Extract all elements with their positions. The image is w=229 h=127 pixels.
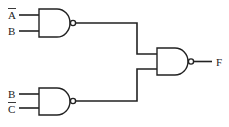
inversion-bubble-1 [70, 20, 75, 25]
output-label-f: F [216, 56, 222, 68]
input-label-b-bottom: B [8, 88, 15, 100]
nand-body-3 [157, 48, 188, 75]
nand-gate-2: B C [8, 69, 157, 115]
nand-gate-1: A B [8, 9, 157, 55]
input-label-a-bar: A [8, 9, 16, 21]
input-label-c-bar: C [8, 103, 15, 115]
input-label-b-top: B [8, 25, 15, 37]
nand-body-1 [39, 9, 70, 37]
nand-gate-3: F [157, 48, 222, 75]
logic-circuit-diagram: A B B C F [0, 0, 229, 127]
wire-nand1-to-nand3 [76, 23, 157, 54]
inversion-bubble-3 [188, 59, 193, 64]
inversion-bubble-2 [70, 98, 75, 103]
wire-nand2-to-nand3 [76, 69, 157, 101]
nand-body-2 [39, 88, 70, 115]
